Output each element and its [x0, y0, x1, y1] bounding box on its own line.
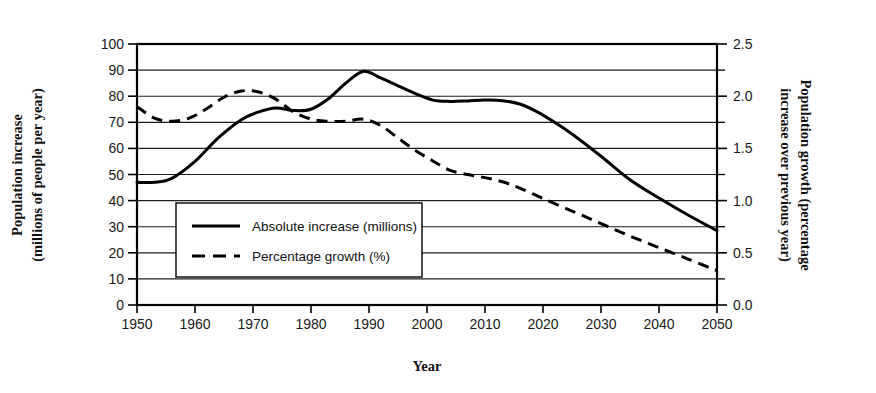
x-tick-label: 2020 — [527, 316, 558, 332]
x-axis-title: Year — [413, 358, 443, 374]
y2-tick-label: 1.5 — [733, 140, 753, 156]
y-tick-label: 90 — [108, 62, 124, 78]
y-tick-label: 80 — [108, 88, 124, 104]
left-axis-title-line2: (millions of people per year) — [29, 88, 46, 262]
x-tick-label: 2000 — [411, 316, 442, 332]
legend-box — [176, 203, 422, 277]
y2-tick-label: 1.0 — [733, 193, 753, 209]
y2-tick-label: 0.5 — [733, 245, 753, 261]
y-tick-label: 60 — [108, 140, 124, 156]
y-tick-label: 20 — [108, 245, 124, 261]
legend-label-absolute-increase: Absolute increase (millions) — [252, 219, 417, 234]
x-tick-label: 1980 — [295, 316, 326, 332]
x-tick-label: 2010 — [469, 316, 500, 332]
x-tick-label: 1960 — [179, 316, 210, 332]
y-tick-label: 100 — [101, 36, 125, 52]
legend: Absolute increase (millions) Percentage … — [176, 203, 422, 277]
right-axis-title-line1: Population growth (percentage — [797, 79, 814, 271]
y-tick-label: 70 — [108, 114, 124, 130]
y-tick-label: 50 — [108, 167, 124, 183]
legend-label-percentage-growth: Percentage growth (%) — [252, 249, 390, 264]
right-axis-title-line2: increase over previous year) — [777, 88, 794, 262]
y2-tick-label: 2.5 — [733, 36, 753, 52]
population-growth-chart: 100 90 80 70 60 50 40 30 20 10 0 2.5 2.0… — [0, 0, 876, 393]
y-tick-label: 10 — [108, 271, 124, 287]
x-tick-label: 2050 — [701, 316, 732, 332]
x-tick-label: 1950 — [121, 316, 152, 332]
y-tick-label: 30 — [108, 219, 124, 235]
x-tick-label: 1970 — [237, 316, 268, 332]
x-tick-label: 2030 — [585, 316, 616, 332]
y-tick-label: 40 — [108, 193, 124, 209]
x-tick-label: 2040 — [643, 316, 674, 332]
x-tick-label: 1990 — [353, 316, 384, 332]
y-tick-label: 0 — [116, 297, 124, 313]
left-axis-title-line1: Population increase — [9, 114, 25, 236]
y2-tick-label: 2.0 — [733, 88, 753, 104]
y2-tick-label: 0.0 — [733, 297, 753, 313]
